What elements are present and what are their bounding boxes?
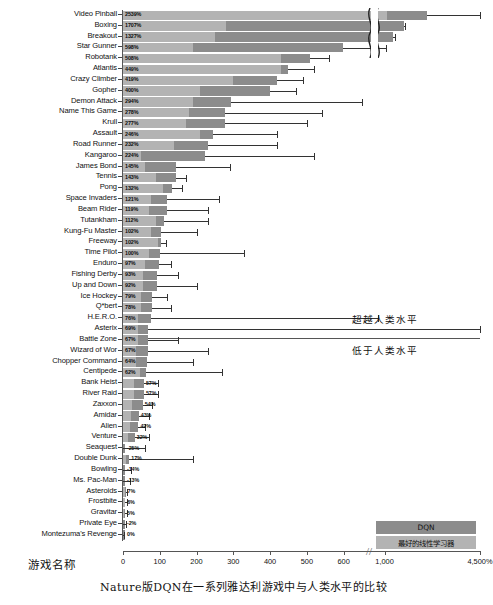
bar-linear-learner [123, 76, 233, 85]
game-label: Montezuma's Revenge [41, 529, 117, 540]
error-bar [427, 15, 480, 16]
y-tick [118, 404, 122, 405]
game-label: Battle Zone [79, 334, 117, 345]
y-tick [118, 198, 122, 199]
bar-row: Alien42% [123, 422, 480, 433]
error-bar-cap [395, 34, 396, 41]
game-label: Bank Heist [81, 377, 117, 388]
error-bar-cap [277, 142, 278, 149]
y-tick [118, 209, 122, 210]
x-tick-label: 300 [227, 557, 239, 566]
bar-row: Centipede62% [123, 367, 480, 378]
game-label: Krull [102, 117, 117, 128]
y-tick [118, 144, 122, 145]
annotation-above-human: 超越人类水平 [352, 312, 418, 326]
bar-row: Time Pilot100% [123, 248, 480, 259]
bar-value-label: 132% [125, 184, 138, 194]
bar-value-label: 62% [125, 368, 136, 378]
error-bar-cap [208, 218, 209, 225]
error-bar [167, 210, 208, 211]
error-bar-cap [171, 305, 172, 312]
game-label: Star Gunner [77, 41, 117, 52]
x-tick-label: 0 [121, 557, 125, 566]
game-label: Kung-Fu Master [64, 226, 117, 237]
bar-value-label: 449% [125, 65, 138, 75]
figure-caption: Nature版DQN在一系列雅达利游戏中与人类水平的比较 [0, 578, 487, 594]
bar-value-label: 17% [131, 454, 142, 464]
bar-row: Demon Attack294% [123, 97, 480, 108]
legend-label-dqn: DQN [417, 523, 434, 532]
bar-linear-learner [123, 400, 132, 409]
bar-value-label: 102% [125, 238, 138, 248]
bar-value-label: 57% [146, 389, 157, 399]
game-label: Robotank [85, 52, 117, 63]
game-label: Gravitar [91, 507, 117, 518]
y-tick [118, 166, 122, 167]
game-label: Demon Attack [71, 96, 117, 107]
bar-row: Chopper Command64% [123, 357, 480, 368]
y-tick [118, 36, 122, 37]
bar-value-label: 102% [125, 227, 138, 237]
error-bar [152, 308, 171, 309]
y-tick [118, 46, 122, 47]
x-tick [307, 551, 308, 555]
bar-row: Ice Hockey79% [123, 292, 480, 303]
y-tick [118, 57, 122, 58]
error-bar-cap [307, 120, 308, 127]
bar-value-label: 598% [125, 43, 138, 53]
y-tick [118, 68, 122, 69]
x-tick-label: 400 [264, 557, 276, 566]
bar-row: Atlantis449% [123, 64, 480, 75]
game-label: Gopher [92, 85, 117, 96]
bar-value-label: 143% [125, 173, 138, 183]
bar-value-label: 67% [125, 335, 136, 345]
game-label: Atlantis [93, 63, 117, 74]
y-tick [118, 436, 122, 437]
annotation-below-human: 低于人类水平 [352, 343, 418, 357]
bar-row: Gopher400% [123, 86, 480, 97]
error-bar [176, 167, 229, 168]
bar-row: Crazy Climber419% [123, 75, 480, 86]
bar-value-label: 224% [125, 151, 138, 161]
y-tick [118, 252, 122, 253]
game-label: Road Runner [73, 139, 117, 150]
bar-row: Road Runner232% [123, 140, 480, 151]
y-tick [118, 317, 122, 318]
error-bar [146, 372, 222, 373]
y-tick [118, 512, 122, 513]
game-label: Space Invaders [66, 193, 117, 204]
bar-row: Asteroids7% [123, 487, 480, 498]
bar-value-label: 79% [125, 292, 136, 302]
game-label: Tennis [96, 171, 117, 182]
game-label: Bowling [91, 464, 117, 475]
bar-row: Robotank508% [123, 53, 480, 64]
bar-row: Enduro97% [123, 259, 480, 270]
bar-row: Ms. Pac-Man-13% [123, 476, 480, 487]
error-bar-cap [193, 359, 194, 366]
error-bar-cap [197, 283, 198, 290]
error-bar-cap [208, 207, 209, 214]
y-tick [118, 480, 122, 481]
error-bar [160, 253, 245, 254]
x-tick [480, 551, 481, 555]
y-tick [118, 187, 122, 188]
game-label: Time Pilot [85, 247, 117, 258]
bar-row: Battle Zone67% [123, 335, 480, 346]
error-bar-cap [230, 164, 231, 171]
y-tick [118, 393, 122, 394]
y-tick [118, 306, 122, 307]
game-label: Up and Down [72, 280, 117, 291]
bar-value-label: 1707% [125, 21, 141, 31]
error-bar-cap [362, 99, 363, 106]
error-bar-cap [197, 229, 198, 236]
game-label: Amidar [94, 410, 117, 421]
bar-value-label: 112% [125, 216, 138, 226]
bar-row: Fishing Derby93% [123, 270, 480, 281]
y-tick [118, 534, 122, 535]
y-tick [118, 79, 122, 80]
y-tick [118, 285, 122, 286]
error-bar-cap [158, 380, 159, 387]
game-label: Fishing Derby [71, 269, 117, 280]
error-bar-cap [314, 66, 315, 73]
bar-row: Zaxxon54% [123, 400, 480, 411]
